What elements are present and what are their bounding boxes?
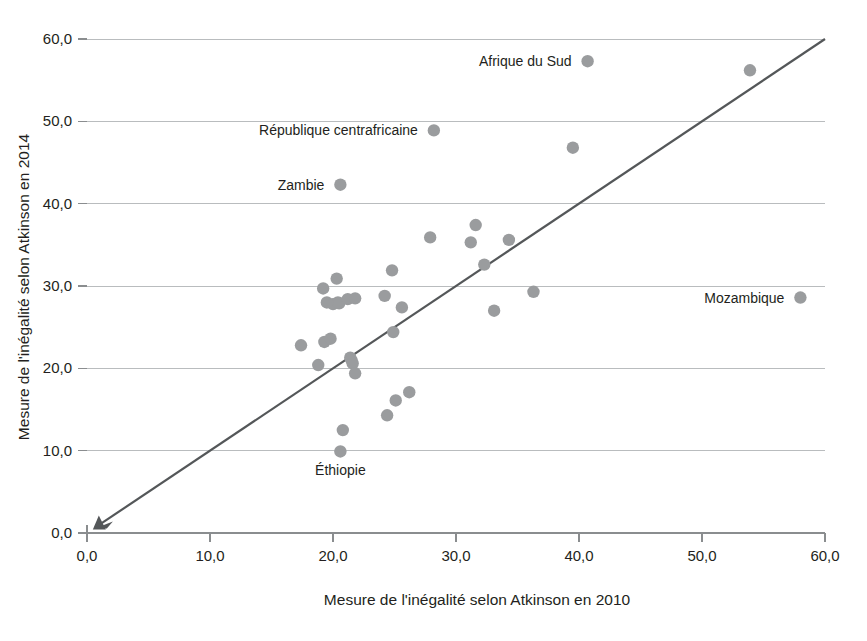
x-tick-label-3: 30,0 bbox=[441, 547, 470, 564]
annotation-label-0: Afrique du Sud bbox=[479, 53, 572, 69]
data-point-31[interactable] bbox=[488, 305, 500, 317]
chart-svg: Afrique du SudRépublique centrafricaineZ… bbox=[0, 0, 867, 641]
data-point-34[interactable] bbox=[567, 141, 579, 153]
x-tick-label-2: 20,0 bbox=[318, 547, 347, 564]
data-point--thiopie[interactable] bbox=[334, 445, 346, 457]
data-point-26[interactable] bbox=[424, 231, 436, 243]
data-point-23[interactable] bbox=[390, 394, 402, 406]
data-point-1[interactable] bbox=[312, 359, 324, 371]
data-point-0[interactable] bbox=[295, 339, 307, 351]
data-point-zambie[interactable] bbox=[334, 179, 346, 191]
x-tick-label-1: 10,0 bbox=[195, 547, 224, 564]
x-tick-label-6: 60,0 bbox=[810, 547, 839, 564]
data-point-r-publique-centrafricaine[interactable] bbox=[428, 124, 440, 136]
y-tick-label-5: 50,0 bbox=[43, 112, 72, 129]
data-point-afrique-du-sud[interactable] bbox=[581, 55, 593, 67]
scatter-chart-figure: Afrique du SudRépublique centrafricaineZ… bbox=[0, 0, 867, 641]
y-tick-label-3: 30,0 bbox=[43, 277, 72, 294]
data-point-24[interactable] bbox=[396, 301, 408, 313]
data-point-25[interactable] bbox=[403, 386, 415, 398]
data-point-36[interactable] bbox=[744, 64, 756, 76]
data-point-20[interactable] bbox=[381, 409, 393, 421]
data-point-30[interactable] bbox=[478, 258, 490, 270]
y-tick-label-4: 40,0 bbox=[43, 195, 72, 212]
data-point-18[interactable] bbox=[349, 367, 361, 379]
x-tick-label-5: 50,0 bbox=[687, 547, 716, 564]
x-axis-title: Mesure de l'inégalité selon Atkinson en … bbox=[324, 591, 631, 608]
data-point-5[interactable] bbox=[324, 332, 336, 344]
y-tick-label-1: 10,0 bbox=[43, 442, 72, 459]
y-tick-label-6: 60,0 bbox=[43, 30, 72, 47]
data-point-28[interactable] bbox=[465, 236, 477, 248]
annotation-label-3: Mozambique bbox=[704, 290, 784, 306]
data-point-29[interactable] bbox=[469, 219, 481, 231]
data-point-33[interactable] bbox=[527, 286, 539, 298]
data-point-32[interactable] bbox=[503, 234, 515, 246]
y-tick-label-0: 0,0 bbox=[51, 524, 72, 541]
x-tick-label-4: 40,0 bbox=[564, 547, 593, 564]
data-point-21[interactable] bbox=[386, 264, 398, 276]
data-point-mozambique[interactable] bbox=[794, 291, 806, 303]
annotation-label-2: Zambie bbox=[278, 177, 325, 193]
data-point-2[interactable] bbox=[317, 282, 329, 294]
data-point-19[interactable] bbox=[378, 290, 390, 302]
data-point-17[interactable] bbox=[349, 292, 361, 304]
y-axis-title: Mesure de l'inégalité selon Atkinson en … bbox=[15, 133, 32, 440]
data-point-7[interactable] bbox=[330, 272, 342, 284]
data-point-12[interactable] bbox=[337, 424, 349, 436]
x-tick-label-0: 0,0 bbox=[77, 547, 98, 564]
y-tick-label-2: 20,0 bbox=[43, 359, 72, 376]
chart-background bbox=[0, 0, 867, 641]
annotation-label-1: République centrafricaine bbox=[259, 122, 418, 138]
annotation-label-4: Éthiopie bbox=[315, 462, 366, 478]
data-point-22[interactable] bbox=[387, 326, 399, 338]
